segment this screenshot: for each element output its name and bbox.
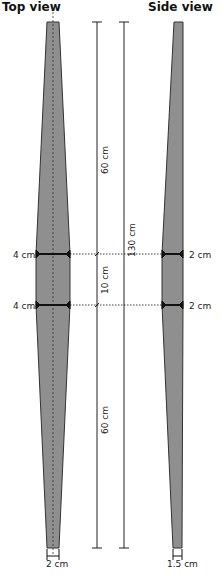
side-end-width-label: 1.5 cm xyxy=(167,559,198,569)
side-width-upper-label: 2 cm xyxy=(189,250,211,260)
top-end-width-label: 2 cm xyxy=(46,559,68,569)
lower-length-label: 60 cm xyxy=(100,406,110,434)
total-dimension-line xyxy=(119,22,129,548)
side-view-shape xyxy=(162,22,183,548)
upper-length-label: 60 cm xyxy=(100,146,110,174)
total-length-label: 130 cm xyxy=(127,223,137,257)
side-width-lower-label: 2 cm xyxy=(189,301,211,311)
top-width-lower-label: 4 cm xyxy=(13,301,35,311)
middle-length-label: 10 cm xyxy=(100,266,110,294)
bat-diagram: 60 cm 10 cm 60 cm 130 cm 4 cm 4 cm 2 cm … xyxy=(0,0,221,584)
top-width-upper-label: 4 cm xyxy=(13,250,35,260)
